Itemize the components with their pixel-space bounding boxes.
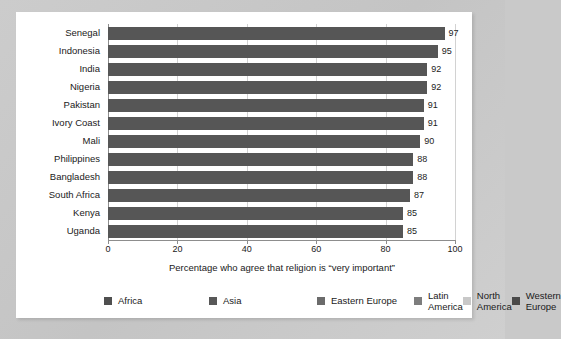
category-label: Bangladesh	[50, 168, 100, 186]
bar-row: Nigeria92	[108, 78, 455, 96]
bar-row: Pakistan91	[108, 96, 455, 114]
x-tick-label: 40	[242, 244, 252, 254]
x-tick-label: 100	[447, 244, 462, 254]
bar	[108, 81, 427, 94]
gridline	[455, 24, 456, 240]
legend-item: Eastern Europe	[317, 293, 414, 308]
bar-row: Bangladesh88	[108, 168, 455, 186]
bar-value-label: 91	[428, 99, 438, 112]
bar	[108, 99, 424, 112]
chart-legend: AfricaAsiaEastern EuropeLatin AmericaNor…	[104, 293, 414, 308]
bar-row: Indonesia95	[108, 42, 455, 60]
bar-row: Senegal97	[108, 24, 455, 42]
bar-row: Uganda85	[108, 222, 455, 240]
legend-label: Eastern Europe	[331, 295, 397, 306]
category-label: Ivory Coast	[52, 114, 100, 132]
bar-value-label: 87	[414, 189, 424, 202]
bar-row: India92	[108, 60, 455, 78]
legend-swatch-icon	[317, 297, 325, 305]
bar-row: Kenya85	[108, 204, 455, 222]
x-tick-label: 20	[172, 244, 182, 254]
bar-value-label: 85	[407, 225, 417, 238]
category-label: Kenya	[73, 204, 100, 222]
bar-row: Philippines88	[108, 150, 455, 168]
bar-value-label: 97	[449, 27, 459, 40]
bar	[108, 207, 403, 220]
category-label: Indonesia	[59, 42, 100, 60]
bar-value-label: 92	[431, 81, 441, 94]
legend-label: Africa	[118, 295, 142, 306]
legend-item: Asia	[209, 293, 317, 308]
bar	[108, 225, 403, 238]
category-label: Philippines	[54, 150, 100, 168]
plot-area: Senegal97Indonesia95India92Nigeria92Paki…	[108, 24, 455, 240]
x-tick-label: 60	[311, 244, 321, 254]
bar-row: Ivory Coast91	[108, 114, 455, 132]
bar	[108, 189, 410, 202]
bar-value-label: 88	[417, 171, 427, 184]
category-label: Uganda	[67, 222, 100, 240]
category-label: Mali	[83, 132, 100, 150]
chart-card: Senegal97Indonesia95India92Nigeria92Paki…	[16, 12, 472, 318]
category-label: Nigeria	[70, 78, 100, 96]
legend-label: North America	[477, 290, 512, 312]
x-axis-label: Percentage who agree that religion is “v…	[108, 262, 456, 273]
x-axis-line	[108, 240, 456, 241]
legend-item: Latin America	[414, 293, 463, 308]
bar-value-label: 91	[428, 117, 438, 130]
bar	[108, 171, 413, 184]
category-label: Senegal	[65, 24, 100, 42]
legend-swatch-icon	[104, 297, 112, 305]
category-label: Pakistan	[64, 96, 100, 114]
legend-swatch-icon	[414, 297, 422, 305]
legend-label: Western Europe	[526, 290, 561, 312]
bar-value-label: 95	[442, 45, 452, 58]
legend-item: Western Europe	[512, 293, 561, 308]
legend-label: Asia	[223, 295, 241, 306]
bar	[108, 63, 427, 76]
legend-swatch-icon	[209, 297, 217, 305]
legend-item: North America	[463, 293, 512, 308]
legend-label: Latin America	[428, 290, 463, 312]
bar-value-label: 90	[424, 135, 434, 148]
bar-value-label: 92	[431, 63, 441, 76]
x-tick-label: 0	[105, 244, 110, 254]
bar	[108, 153, 413, 166]
bar	[108, 27, 445, 40]
bar-value-label: 85	[407, 207, 417, 220]
x-tick-label: 80	[381, 244, 391, 254]
bar-row: South Africa87	[108, 186, 455, 204]
category-label: South Africa	[49, 186, 100, 204]
legend-item: Africa	[104, 293, 209, 308]
bar-value-label: 88	[417, 153, 427, 166]
bar-row: Mali90	[108, 132, 455, 150]
legend-swatch-icon	[463, 297, 471, 305]
bar	[108, 45, 438, 58]
bar	[108, 135, 420, 148]
bar	[108, 117, 424, 130]
category-label: India	[79, 60, 100, 78]
legend-swatch-icon	[512, 297, 520, 305]
